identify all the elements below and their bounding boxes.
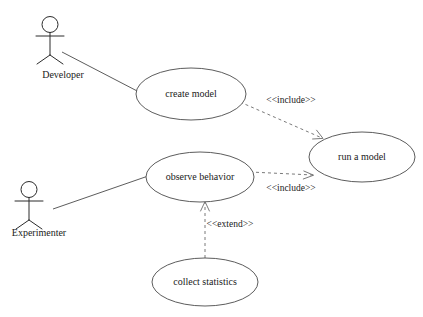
use-case-collect-statistics[interactable]: collect statistics [152,258,258,306]
dependency-create-model-include-run-a-model[interactable] [240,102,323,139]
actor-leg-right-icon [50,55,63,64]
use-case-label: observe behavior [166,171,235,182]
use-case-label: create model [165,88,217,99]
actor-label: Developer [42,69,84,80]
use-case-observe-behavior[interactable]: observe behavior [146,152,254,202]
use-case-label: run a model [338,151,386,162]
diagram-svg-surface: create model run a model observe behavio… [0,0,423,317]
open-arrowhead-icon [313,130,323,139]
stereotype-label-extend-collect-statistics: <<extend>> [207,219,254,229]
actor-head-icon [21,182,37,198]
actor-developer[interactable]: Developer [36,17,84,81]
actor-label: Experimenter [12,227,67,238]
dependency-observe-behavior-include-run-a-model[interactable] [250,171,314,179]
actor-group: Developer Experimenter [12,17,85,239]
use-case-label: collect statistics [173,276,237,287]
dependency-collect-statistics-extend-observe-behavior[interactable] [201,202,210,258]
actor-experimenter[interactable]: Experimenter [12,182,67,239]
use-case-create-model[interactable]: create model [136,68,246,120]
dependency-line [240,102,322,138]
use-case-diagram-canvas: create model run a model observe behavio… [0,0,423,317]
actor-head-icon [42,17,58,33]
association-experimenter-observe-behavior[interactable] [53,175,151,209]
stereotype-label-include-create-model: <<include>> [266,95,315,105]
dependency-line [250,172,313,175]
use-case-run-a-model[interactable]: run a model [309,132,415,182]
stereotype-label-include-observe-behavior: <<include>> [266,183,315,193]
actor-leg-left-icon [37,55,50,64]
